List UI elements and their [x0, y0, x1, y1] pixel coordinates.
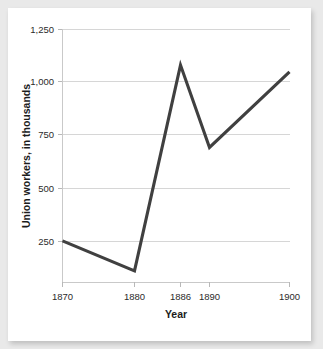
x-axis-title: Year [165, 308, 187, 320]
x-tick-label-1880: 1880 [124, 291, 145, 302]
data-series-union-workers [63, 65, 290, 271]
axes [62, 29, 290, 283]
x-tick-label-1890: 1890 [199, 291, 220, 302]
y-tick-labels: 1,250 1,000 750 500 250 [30, 24, 54, 247]
x-tick-label-1900: 1900 [279, 291, 300, 302]
line-chart: 1,250 1,000 750 500 250 1870 1880 1886 1… [8, 8, 311, 341]
y-tick-marks [58, 30, 62, 242]
y-tick-label-1250: 1,250 [30, 24, 54, 35]
x-tick-label-1870: 1870 [52, 291, 73, 302]
y-tick-label-500: 500 [38, 183, 54, 194]
chart-card: 1,250 1,000 750 500 250 1870 1880 1886 1… [8, 8, 311, 341]
x-tick-labels: 1870 1880 1886 1890 1900 [52, 291, 300, 302]
x-tick-label-1886: 1886 [170, 291, 191, 302]
y-axis-title: Union workers, in thousands [20, 84, 32, 228]
y-tick-label-750: 750 [38, 129, 54, 140]
y-tick-label-250: 250 [38, 236, 54, 247]
figure-root: 1,250 1,000 750 500 250 1870 1880 1886 1… [0, 0, 323, 349]
y-tick-label-1000: 1,000 [30, 76, 54, 87]
gridlines [62, 30, 290, 242]
